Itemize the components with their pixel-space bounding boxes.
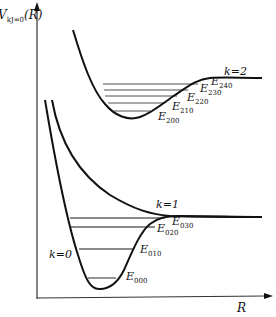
label-e000: E000 xyxy=(125,270,147,285)
label-k0: k=0 xyxy=(49,248,72,261)
x-axis xyxy=(37,296,266,298)
x-axis-label: R xyxy=(236,301,246,315)
label-k2: k=2 xyxy=(224,65,247,78)
y-axis-label: VkJ=0(R) xyxy=(0,8,43,24)
label-k1: k=1 xyxy=(156,198,179,211)
x-axis-arrow-icon xyxy=(264,293,273,299)
k0-levels xyxy=(70,218,165,278)
curve-k0 xyxy=(45,100,262,289)
potential-energy-diagram: VkJ=0(R) R k=2 k=1 k=0 E200 E210 E220 E2… xyxy=(0,0,276,317)
label-e010: E010 xyxy=(139,243,161,258)
